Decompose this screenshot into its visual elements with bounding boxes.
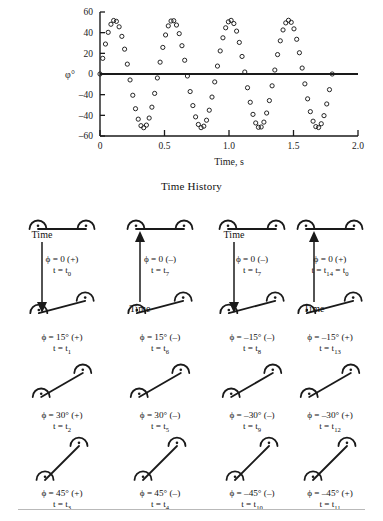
phase-cell: ϕ = –45° (+)t = t11 xyxy=(290,430,370,511)
time-arrow-icon xyxy=(33,240,51,314)
phase-angle-label: ϕ = 45° (+) xyxy=(22,488,102,499)
data-point xyxy=(297,51,301,55)
data-point xyxy=(245,86,249,90)
hook-dot xyxy=(346,442,349,445)
phase-glyph xyxy=(121,352,199,410)
phase-angle-label: ϕ = 30° (–) xyxy=(120,410,200,421)
data-point xyxy=(270,84,274,88)
connector-bar xyxy=(45,446,79,480)
data-point xyxy=(109,22,113,26)
data-point xyxy=(254,121,258,125)
data-point xyxy=(103,42,107,46)
hook-dot xyxy=(183,225,186,228)
hook-dot xyxy=(234,475,237,478)
data-point xyxy=(147,116,151,120)
x-tick-label: 0.5 xyxy=(159,141,171,151)
x-tick-label: 0 xyxy=(98,141,103,151)
phase-glyph xyxy=(213,430,291,488)
x-tick-label: 1.5 xyxy=(288,141,300,151)
data-point xyxy=(155,76,159,80)
y-tick-label: 0 xyxy=(88,69,93,79)
data-point xyxy=(188,89,192,93)
time-arrow-1: Time xyxy=(14,230,70,314)
data-point xyxy=(240,54,244,58)
phase-glyph xyxy=(291,430,369,488)
data-point xyxy=(232,21,236,25)
data-point xyxy=(128,78,132,82)
data-point xyxy=(213,80,217,84)
time-arrow-label: Time xyxy=(206,230,262,240)
hook-dot xyxy=(142,475,145,478)
data-point xyxy=(322,114,326,118)
data-point xyxy=(133,107,137,111)
data-point xyxy=(295,37,299,41)
hook-dot xyxy=(275,225,278,228)
data-point xyxy=(306,97,310,101)
hook-dot xyxy=(312,475,315,478)
figure-root: 6040200–40–40–6000.51.01.52.0φ°Time, s T… xyxy=(0,0,383,521)
y-tick-label: 40 xyxy=(84,28,94,38)
y-tick-label: –60 xyxy=(78,131,94,141)
hook-dot xyxy=(78,442,81,445)
data-point xyxy=(259,125,263,129)
hook-dot xyxy=(85,225,88,228)
time-arrow-icon xyxy=(131,230,149,304)
connector-bar xyxy=(309,373,351,397)
data-point xyxy=(114,19,118,23)
data-point xyxy=(136,117,140,121)
data-point xyxy=(161,45,165,49)
phase-glyph xyxy=(23,352,101,410)
hook-dot xyxy=(44,475,47,478)
data-point xyxy=(224,26,228,30)
data-point xyxy=(327,88,331,92)
data-point xyxy=(237,40,241,44)
data-point xyxy=(177,32,181,36)
y-axis-label: φ° xyxy=(65,69,75,80)
data-point xyxy=(248,100,252,104)
hook-dot xyxy=(227,225,230,228)
phase-diagram-grid: ϕ = 0 (+)t = t0ϕ = 0 (–)t = t7ϕ = 0 (–)t… xyxy=(0,196,383,506)
data-point xyxy=(112,18,116,22)
data-point xyxy=(262,120,266,124)
data-point xyxy=(303,82,307,86)
data-point xyxy=(122,47,126,51)
data-point xyxy=(207,108,211,112)
time-history-chart: 6040200–40–40–6000.51.01.52.0φ°Time, s xyxy=(0,0,383,178)
phase-angle-label: ϕ = –45° (+) xyxy=(290,488,370,499)
data-point xyxy=(234,29,238,33)
hook-dot xyxy=(179,369,182,372)
phase-cell: ϕ = –45° (–)t = t10 xyxy=(212,430,292,511)
time-arrow-label: Time xyxy=(14,230,70,240)
data-point xyxy=(278,39,282,43)
time-arrow-label: Time xyxy=(286,304,342,314)
data-point xyxy=(191,103,195,107)
phase-angle-label: ϕ = –30° (–) xyxy=(212,410,292,421)
data-point xyxy=(172,19,176,23)
data-point xyxy=(101,56,105,60)
y-tick-label: 60 xyxy=(84,7,94,17)
data-point xyxy=(265,111,269,115)
hook-dot xyxy=(182,296,185,299)
hook-dot xyxy=(84,296,87,299)
data-point xyxy=(174,23,178,27)
hook-dot xyxy=(176,442,179,445)
hook-dot xyxy=(135,225,138,228)
data-point xyxy=(144,123,148,127)
time-arrow-icon xyxy=(225,240,243,314)
data-point xyxy=(125,62,129,66)
data-point xyxy=(316,125,320,129)
phase-angle-label: ϕ = 15° (–) xyxy=(120,332,200,343)
phase-cell: ϕ = –30° (–)t = t9 xyxy=(212,352,292,433)
data-point xyxy=(166,24,170,28)
hook-dot xyxy=(268,442,271,445)
data-point xyxy=(210,95,214,99)
time-arrow-2: Time xyxy=(112,230,168,314)
x-axis-label: Time, s xyxy=(214,156,244,167)
chart-svg: 6040200–40–40–6000.51.01.52.0φ°Time, s xyxy=(0,0,383,178)
data-point xyxy=(300,66,304,70)
data-point xyxy=(131,93,135,97)
data-point xyxy=(275,52,279,56)
hook-dot xyxy=(37,225,40,228)
hook-dot xyxy=(271,369,274,372)
phase-glyph xyxy=(23,430,101,488)
